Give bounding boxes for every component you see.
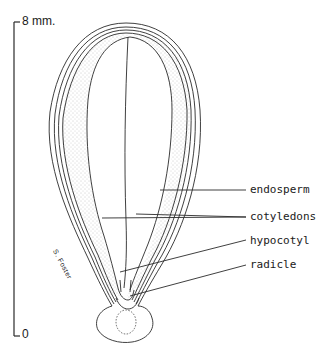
seed-drawing — [0, 0, 322, 346]
scale-top-label: 8 mm. — [22, 14, 55, 28]
leader-cotyledons-a — [102, 217, 246, 218]
label-cotyledons: cotyledons — [250, 211, 316, 223]
leader-cotyledons-b — [136, 214, 246, 217]
label-hypocotyl: hypocotyl — [250, 235, 310, 247]
basal-bulb — [97, 306, 153, 343]
leader-hypocotyl — [120, 240, 246, 272]
seed-diagram: 8 mm. 0 endosperm cotyledons hypocotyl r… — [0, 0, 322, 346]
label-radicle: radicle — [250, 259, 296, 271]
scale-bar — [14, 22, 20, 336]
label-endosperm: endosperm — [250, 184, 310, 196]
scale-bottom-label: 0 — [22, 327, 29, 341]
